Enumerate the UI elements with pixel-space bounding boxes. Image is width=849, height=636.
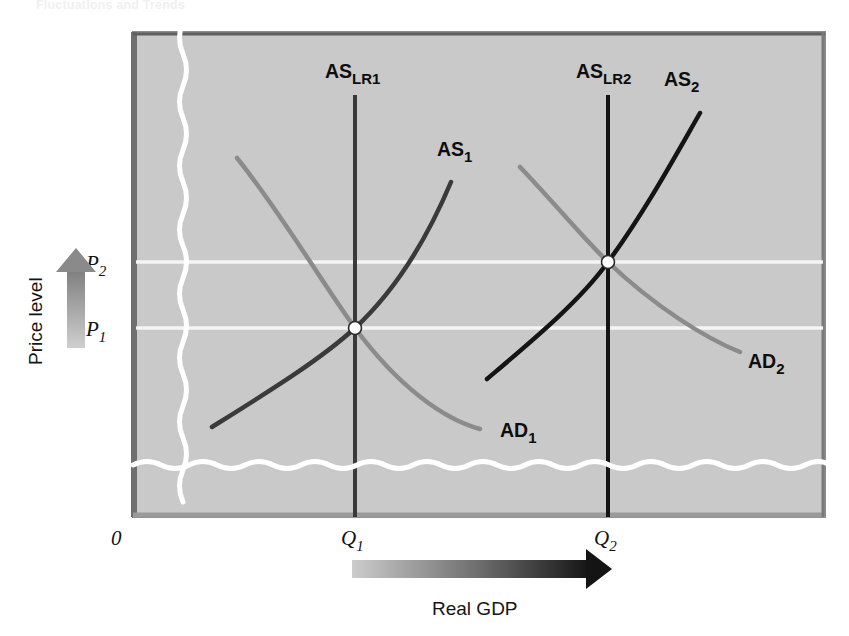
x-axis-tick-labels: Q1 Q2 0 — [111, 526, 617, 554]
price-arrow-shaft — [67, 268, 85, 348]
plot-area — [133, 32, 825, 517]
equilibrium-point-2[interactable] — [602, 256, 615, 269]
aggregate-demand-supply-diagram: ASLR1 ASLR2 AS1 AS2 AD1 AD2 P2 — [0, 0, 849, 636]
figure-page: Fluctuations and Trends — [0, 0, 849, 636]
plot-background — [133, 32, 825, 517]
y-axis-title-group: Price level — [25, 248, 96, 365]
y-axis-title: Price level — [25, 277, 46, 365]
origin-label: 0 — [111, 526, 122, 550]
tick-label-q2: Q2 — [594, 526, 617, 554]
tick-label-q1: Q1 — [341, 526, 364, 554]
tick-label-p1: P1 — [85, 317, 106, 345]
gdp-arrow-shaft — [352, 560, 590, 578]
real-gdp-arrow — [352, 549, 612, 589]
gdp-arrow-head — [586, 549, 612, 589]
x-axis-title: Real GDP — [432, 598, 518, 619]
x-axis-title-group: Real GDP — [352, 549, 612, 619]
equilibrium-point-1[interactable] — [349, 322, 362, 335]
